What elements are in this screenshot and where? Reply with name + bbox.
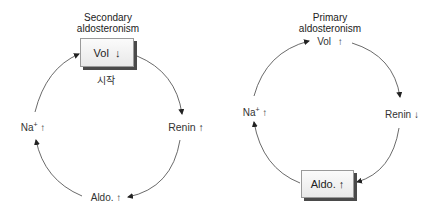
na-label: Na [21, 122, 34, 133]
arrow-down-icon: ↓ [115, 47, 121, 59]
arrow-na-to-vol-secondary [35, 54, 79, 112]
primary-renin-node: Renin ↓ [385, 109, 419, 120]
arrow-na-to-vol-primary [254, 41, 309, 96]
arrow-up-icon: ↑ [339, 178, 345, 190]
na-superscript: + [255, 106, 259, 113]
arrow-up-icon: ↑ [116, 192, 121, 203]
arrow-up-icon: ↑ [199, 121, 204, 133]
na-label: Na [243, 107, 256, 118]
vol-label: Vol [94, 47, 109, 59]
primary-na-node: Na+ ↑ [243, 107, 268, 118]
arrow-down-icon: ↓ [414, 109, 419, 120]
arrow-up-icon: ↑ [262, 107, 267, 118]
cycle-arrows [0, 0, 435, 217]
aldo-label: Aldo. [311, 178, 336, 190]
na-superscript: + [33, 121, 37, 128]
secondary-title-line2: aldosteronism [77, 23, 139, 34]
arrow-up-icon: ↑ [338, 36, 343, 47]
arrow-vol-to-renin-primary [352, 43, 400, 97]
aldo-label: Aldo. [91, 192, 114, 203]
arrow-aldo-to-na-secondary [36, 140, 82, 196]
arrow-renin-to-aldo-primary [357, 128, 399, 182]
primary-title-line1: Primary [313, 12, 347, 23]
renin-label: Renin [168, 121, 195, 133]
primary-vol-node: Vol ↑ [317, 36, 343, 47]
arrow-vol-to-renin-secondary [137, 56, 182, 114]
arrow-up-icon: ↑ [40, 122, 45, 133]
secondary-title-line1: Secondary [84, 12, 132, 23]
primary-aldo-node: Aldo. ↑ [301, 170, 354, 198]
vol-label: Vol [317, 36, 331, 47]
primary-title-line2: aldosteronism [299, 23, 361, 34]
start-label: 시작 [97, 75, 115, 86]
arrow-renin-to-aldo-secondary [128, 140, 180, 197]
secondary-na-node: Na+ ↑ [21, 122, 46, 133]
renin-label: Renin [385, 109, 411, 120]
secondary-renin-node: Renin ↑ [168, 122, 204, 133]
secondary-aldo-node: Aldo. ↑ [91, 192, 122, 203]
secondary-vol-node: Vol ↓ [80, 38, 134, 67]
arrow-aldo-to-na-primary [254, 122, 300, 183]
